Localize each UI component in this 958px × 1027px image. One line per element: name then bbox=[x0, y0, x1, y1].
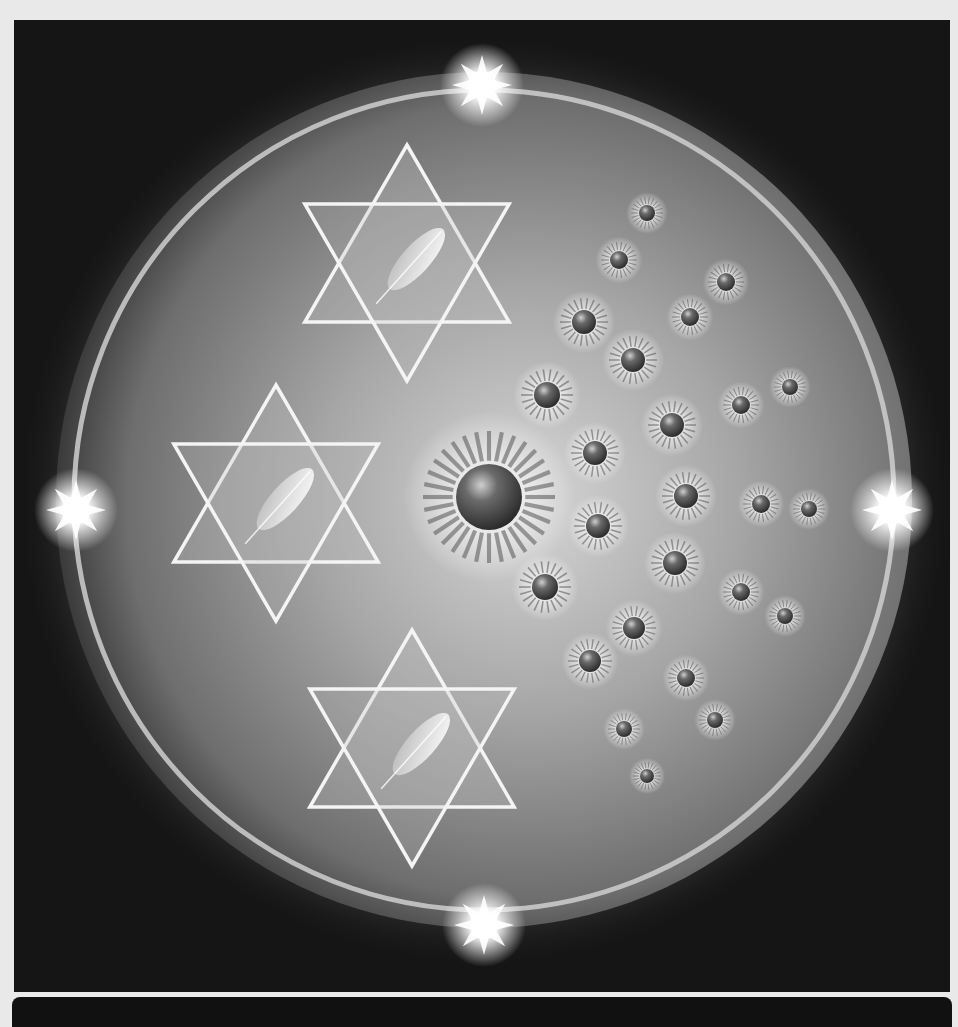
orb bbox=[718, 569, 765, 616]
orb bbox=[667, 294, 714, 341]
starburst-left bbox=[34, 468, 118, 552]
orb bbox=[567, 495, 629, 557]
orb bbox=[769, 366, 811, 408]
starburst-bottom bbox=[442, 883, 526, 967]
orb bbox=[553, 291, 615, 353]
bottom-bar bbox=[12, 997, 952, 1027]
orb bbox=[596, 237, 643, 284]
orb bbox=[511, 553, 579, 621]
orb bbox=[718, 382, 765, 429]
orb bbox=[564, 422, 626, 484]
mandala-illustration bbox=[14, 20, 950, 992]
orb bbox=[655, 465, 717, 527]
orb bbox=[561, 632, 618, 689]
orb bbox=[513, 361, 581, 429]
orb bbox=[663, 655, 710, 702]
orb bbox=[626, 192, 668, 234]
orb bbox=[603, 708, 645, 750]
orb bbox=[738, 481, 785, 528]
starburst-right bbox=[850, 468, 934, 552]
orb bbox=[788, 488, 830, 530]
orb bbox=[694, 699, 736, 741]
orb bbox=[764, 595, 806, 637]
orb bbox=[703, 259, 750, 306]
artwork-panel bbox=[14, 20, 950, 992]
orb bbox=[641, 394, 703, 456]
orb bbox=[644, 532, 706, 594]
starburst-top bbox=[440, 43, 524, 127]
orb bbox=[629, 758, 665, 794]
orb bbox=[602, 329, 664, 391]
